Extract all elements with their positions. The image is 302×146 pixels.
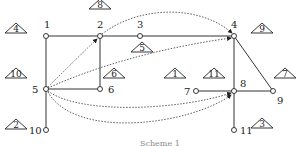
node-label-5: 5 (32, 84, 38, 95)
node-label-6: 6 (108, 84, 114, 95)
node-3 (138, 34, 143, 39)
node-5 (44, 87, 49, 92)
network-diagram: 1234567891011 1234567891011 Scheme 1 (0, 0, 302, 146)
node-label-10: 10 (29, 125, 42, 136)
dotted-arrow-2-4 (102, 12, 232, 34)
node-label-11: 11 (240, 125, 253, 136)
node-4 (232, 34, 237, 39)
triangle-label-3: 3 (259, 119, 265, 129)
node-label-9: 9 (277, 95, 283, 106)
triangle-label-6: 6 (111, 69, 117, 79)
dotted-arrow-5-2 (48, 39, 97, 87)
dotted-arrow-5-8 (48, 91, 231, 107)
node-10 (44, 128, 49, 133)
triangle-label-4: 4 (13, 24, 19, 34)
triangle-label-7: 7 (282, 69, 288, 79)
caption: Scheme 1 (140, 139, 180, 146)
triangle-label-2: 2 (13, 120, 19, 130)
edges (46, 36, 273, 130)
triangle-label-8: 8 (97, 0, 103, 10)
node-label-7: 7 (184, 86, 190, 97)
triangle-label-11: 11 (208, 69, 219, 79)
node-7 (194, 89, 199, 94)
node-11 (232, 128, 237, 133)
node-9 (271, 89, 276, 94)
node-label-4: 4 (231, 19, 237, 30)
triangle-label-5: 5 (139, 43, 145, 53)
node-label-1: 1 (44, 19, 50, 30)
node-2 (98, 34, 103, 39)
node-1 (44, 34, 49, 39)
triangle-label-1: 1 (172, 69, 178, 79)
node-8 (232, 89, 237, 94)
node-label-3: 3 (137, 19, 143, 30)
node-label-2: 2 (97, 19, 103, 30)
node-label-8: 8 (240, 78, 246, 89)
nodes: 1234567891011 (29, 19, 283, 136)
triangle-label-9: 9 (259, 24, 265, 34)
node-6 (98, 87, 103, 92)
triangle-label-10: 10 (10, 69, 22, 79)
